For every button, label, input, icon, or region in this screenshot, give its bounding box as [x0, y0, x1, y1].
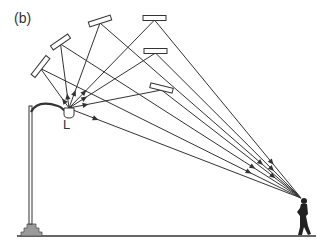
panel-label: (b): [14, 10, 31, 26]
mirror-1: [31, 56, 50, 78]
reflected-ray-4: [155, 20, 302, 198]
light-reflection-diagram: [0, 0, 336, 249]
arrow-icon: [82, 103, 88, 108]
lamp-pole: [29, 106, 32, 224]
person-observer: [297, 198, 311, 235]
arrow-icon: [92, 115, 99, 120]
light-rays: [41, 20, 302, 198]
person-body: [297, 204, 311, 235]
lamp-base: [21, 224, 42, 236]
mirrors: [31, 15, 173, 93]
arrow-icon: [65, 94, 70, 100]
mirror-3: [88, 15, 111, 27]
reflected-ray-5: [156, 53, 302, 198]
person-head: [301, 198, 307, 204]
arrow-icon: [81, 96, 87, 101]
arrow-icon: [249, 163, 255, 168]
direct-ray: [73, 110, 301, 198]
reflected-ray-3: [100, 23, 301, 198]
mirror-5: [144, 49, 167, 54]
lamp-arm: [31, 104, 64, 112]
reflected-ray-6: [162, 90, 302, 198]
arrow-icon: [71, 90, 76, 97]
reflected-ray-2: [61, 44, 302, 198]
mirror-4: [143, 16, 166, 21]
lamp-label: L: [63, 117, 70, 132]
